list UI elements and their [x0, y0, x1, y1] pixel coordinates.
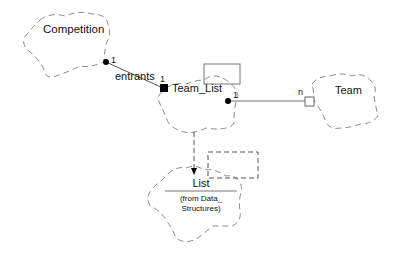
diagram-canvas: [0, 0, 400, 255]
by-value-square: [160, 84, 168, 92]
team-list-left-multiplicity: 1: [160, 75, 165, 84]
list-label[interactable]: List: [186, 178, 216, 189]
team-list-right-multiplicity: 1: [233, 91, 238, 100]
competition-multiplicity: 1: [111, 56, 116, 65]
team-label[interactable]: Team: [335, 85, 362, 96]
competition-label[interactable]: Competition: [43, 24, 104, 36]
list-template-box: [208, 152, 258, 178]
team-list-label[interactable]: Team_List: [172, 83, 222, 94]
team-multiplicity: n: [298, 88, 303, 97]
by-reference-square: [305, 97, 314, 106]
list-package-line1: (from Data_: [166, 195, 236, 203]
competition-end-dot: [103, 59, 109, 65]
instantiation-arrowhead: [191, 168, 197, 175]
team-list-end-dot: [225, 98, 231, 104]
team-cloud: [312, 74, 378, 128]
entrants-role-label: entrants: [115, 71, 155, 82]
team-list-template-box: [204, 64, 240, 84]
list-package-line2: Structures): [166, 205, 236, 213]
